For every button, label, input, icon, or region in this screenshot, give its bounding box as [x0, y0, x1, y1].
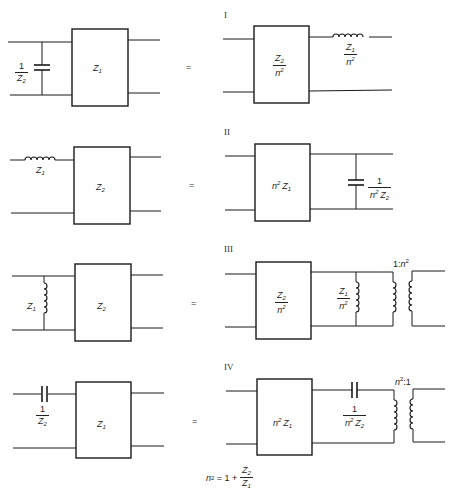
row3-left-box-label: Z2 [97, 302, 106, 312]
row2-right-capacitor-label: 1 n2Z2 [368, 177, 391, 201]
row4-left-capacitor-label: 1 Z2 [36, 405, 49, 427]
transformation-formula: n2 = 1 + Z2 Z1 [206, 466, 253, 489]
row1-left-circuit [8, 29, 160, 106]
row1-numeral: I [224, 10, 227, 20]
row3-right-circuit [225, 262, 445, 339]
row4-transformer-ratio: n2:1 [395, 376, 411, 387]
row4-left-box-label: Z1 [97, 420, 106, 430]
row4-right-capacitor-label: 1 n2Z2 [343, 405, 366, 429]
row2-left-circuit [10, 147, 161, 224]
row1-right-inductor-label: Z1 n2 [344, 43, 357, 67]
row4-numeral: IV [224, 362, 234, 372]
row3-numeral: III [224, 244, 233, 254]
row4-right-box-label: n2Z1 [273, 417, 292, 429]
row2-right-box-label: n2Z1 [272, 180, 291, 192]
row3-transformer-ratio: 1:n2 [393, 258, 409, 269]
row3-equals: = [191, 298, 196, 308]
equivalent-networks-diagram: I II III IV = = = = 1 Z2 Z1 Z2 n2 Z1 n2 … [0, 0, 455, 503]
row1-right-box-label: Z2 n2 [273, 54, 286, 78]
row1-left-box-label: Z1 [93, 64, 102, 74]
row4-right-circuit [226, 379, 445, 455]
row2-left-box-label: Z2 [96, 183, 105, 193]
row1-equals: = [186, 62, 191, 72]
row4-equals: = [192, 416, 197, 426]
row2-left-inductor-label: Z1 [36, 166, 45, 176]
row3-right-inductor-label: Z1 n2 [337, 287, 350, 311]
row2-numeral: II [224, 127, 230, 137]
row1-right-circuit [223, 26, 392, 103]
row2-equals: = [189, 180, 194, 190]
row3-left-inductor-label: Z1 [27, 302, 36, 312]
row3-right-box-label: Z2 n2 [275, 291, 288, 315]
row1-left-capacitor-label: 1 Z2 [15, 62, 28, 84]
